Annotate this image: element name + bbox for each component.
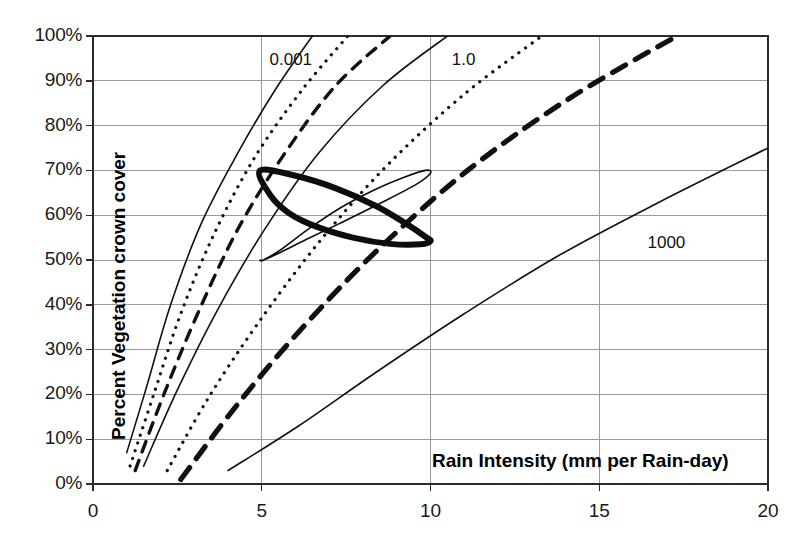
y-tick-label: 100%: [0, 24, 82, 46]
series-contour-f: [181, 36, 677, 480]
y-tick-label: 40%: [0, 293, 82, 315]
y-tick-label: 10%: [0, 427, 82, 449]
contour-label: 0.001: [270, 50, 313, 70]
series-contour-1000: [228, 148, 768, 471]
x-tick-label: 5: [232, 500, 292, 522]
contour-label: 1.0: [452, 50, 476, 70]
series-contour-b: [130, 36, 348, 466]
y-tick-label: 90%: [0, 69, 82, 91]
data-series: [127, 36, 768, 480]
x-axis-label: Rain Intensity (mm per Rain-day): [432, 450, 729, 472]
series-contour-e: [167, 36, 542, 471]
y-tick-label: 30%: [0, 338, 82, 360]
chart-figure: Percent Vegetation crown cover Rain Inte…: [0, 0, 803, 553]
x-tick-label: 10: [401, 500, 461, 522]
y-axis-label: Percent Vegetation crown cover: [108, 152, 130, 440]
y-tick-label: 50%: [0, 248, 82, 270]
y-tick-label: 70%: [0, 158, 82, 180]
series-contour-c: [135, 36, 390, 471]
x-tick-label: 0: [63, 500, 123, 522]
contour-label: 1000: [648, 233, 686, 253]
tick-marks: [86, 36, 768, 491]
x-tick-label: 20: [738, 500, 798, 522]
curve-envelope-bold: [259, 169, 431, 244]
gridlines: [93, 36, 768, 484]
y-tick-label: 20%: [0, 382, 82, 404]
y-tick-label: 80%: [0, 114, 82, 136]
y-tick-label: 60%: [0, 203, 82, 225]
x-tick-label: 15: [569, 500, 629, 522]
y-tick-label: 0%: [0, 472, 82, 494]
